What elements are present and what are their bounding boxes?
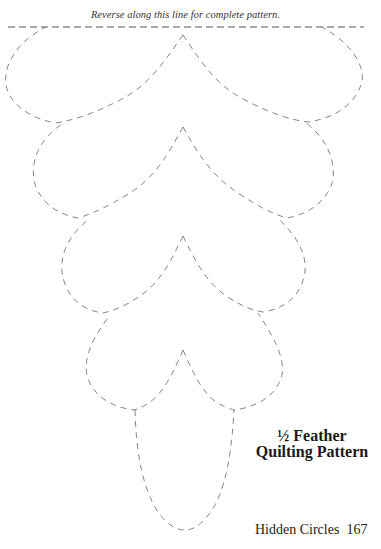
pattern-title-line2: Quilting Pattern [247,444,377,460]
feather-row-4-right [183,313,282,410]
feather-row-1-right [183,27,362,122]
feather-row-2-right [183,122,333,218]
feather-row-1-left [6,27,183,123]
feather-end-teardrop [135,410,234,530]
feather-row-3-left [62,220,183,313]
feather-row-4-left [86,315,183,410]
page-footer: Hidden Circles167 [255,522,381,538]
book-title: Hidden Circles [255,522,339,537]
feather-pattern-drawing [0,0,381,549]
pattern-title: ½ Feather Quilting Pattern [247,428,377,460]
feather-row-3-right [183,218,305,312]
page-number: 167 [346,522,367,537]
pattern-title-line1: ½ Feather [247,428,377,444]
feather-row-2-left [33,124,183,218]
